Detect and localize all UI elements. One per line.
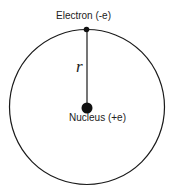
radius-label: r: [76, 57, 83, 77]
nucleus-label: Nucleus (+e): [69, 112, 126, 123]
atom-diagram: [0, 0, 173, 192]
electron-dot: [84, 27, 90, 33]
electron-label: Electron (-e): [56, 10, 111, 21]
